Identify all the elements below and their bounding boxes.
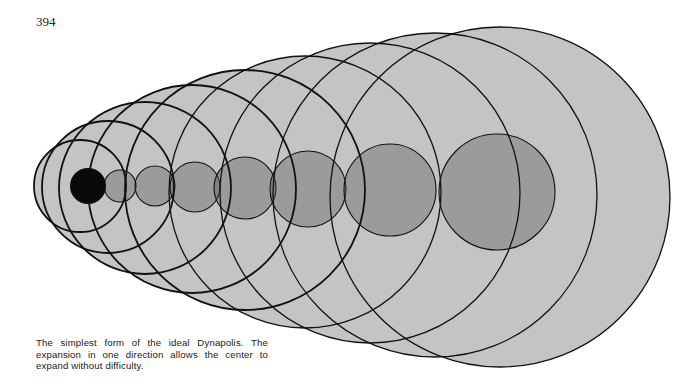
- center-ring-3: [170, 162, 220, 212]
- center-ring-4: [214, 157, 276, 219]
- center-ring-5: [270, 151, 346, 227]
- ideal-dynapolis-diagram: [0, 0, 700, 386]
- figure-caption: The simplest form of the ideal Dynapolis…: [36, 337, 268, 372]
- center-ring-6: [344, 144, 436, 236]
- center-ring-7: [439, 134, 555, 250]
- original-core: [70, 168, 106, 204]
- center-ring-1: [104, 170, 136, 202]
